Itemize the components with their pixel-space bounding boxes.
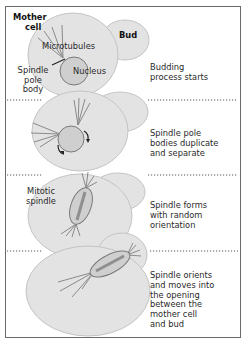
bud-label: Bud	[119, 31, 137, 41]
step-3-description: Spindle forms with random orientation	[150, 201, 207, 230]
microtubules-label: Microtubules	[42, 42, 95, 52]
step-1-description: Budding process starts	[150, 63, 208, 83]
step-2-description: Spindle pole bodies duplicate and separa…	[150, 129, 218, 158]
nucleus-label: Nucleus	[73, 67, 106, 77]
cell-stage-4	[26, 233, 150, 336]
mitotic-spindle-label: Mitotic spindle	[22, 187, 60, 206]
mother-cell-label: Mother cell	[13, 13, 47, 32]
spindle-pole-body-label: Spindle pole body	[13, 66, 53, 95]
nucleus-stage-2	[58, 126, 84, 152]
step-4-description: Spindle orients and moves into the openi…	[150, 271, 214, 330]
